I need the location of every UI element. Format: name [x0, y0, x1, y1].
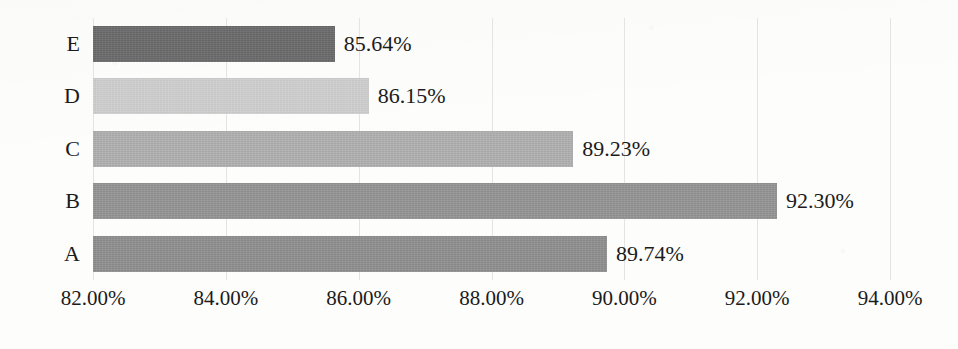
value-label-B: 92.30%: [786, 183, 854, 219]
bar-row-D: D86.15%: [93, 70, 890, 122]
value-label-E: 85.64%: [344, 26, 412, 62]
bar-D[interactable]: [93, 78, 369, 114]
x-tick-label-90.00%: 90.00%: [592, 286, 657, 311]
bar-chart-figure: E85.64%D86.15%C89.23%B92.30%A89.74% 82.0…: [0, 0, 958, 349]
x-tick-label-84.00%: 84.00%: [193, 286, 258, 311]
value-label-C: 89.23%: [582, 131, 650, 167]
bar-C[interactable]: [93, 131, 573, 167]
x-tick-label-86.00%: 86.00%: [326, 286, 391, 311]
bar-row-E: E85.64%: [93, 18, 890, 70]
category-label-B: B: [65, 183, 80, 219]
bar-E[interactable]: [93, 26, 335, 62]
category-label-A: A: [64, 236, 80, 272]
plot-area: E85.64%D86.15%C89.23%B92.30%A89.74%: [93, 18, 890, 280]
category-label-E: E: [67, 26, 80, 62]
gridline-94.00%: [890, 18, 891, 280]
x-tick-label-94.00%: 94.00%: [858, 286, 923, 311]
value-label-A: 89.74%: [616, 236, 684, 272]
bar-A[interactable]: [93, 236, 607, 272]
x-axis-tick-labels: 82.00%84.00%86.00%88.00%90.00%92.00%94.0…: [93, 286, 890, 326]
value-label-D: 86.15%: [378, 78, 446, 114]
bar-B[interactable]: [93, 183, 777, 219]
x-tick-label-88.00%: 88.00%: [459, 286, 524, 311]
x-tick-label-92.00%: 92.00%: [725, 286, 790, 311]
bar-row-A: A89.74%: [93, 228, 890, 280]
x-tick-label-82.00%: 82.00%: [61, 286, 126, 311]
bar-row-B: B92.30%: [93, 175, 890, 227]
category-label-D: D: [64, 78, 80, 114]
category-label-C: C: [65, 131, 80, 167]
bar-row-C: C89.23%: [93, 123, 890, 175]
